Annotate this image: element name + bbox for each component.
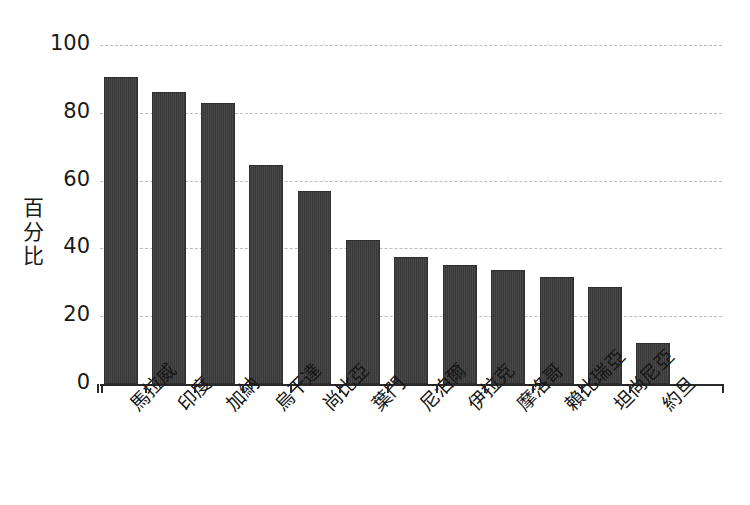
y-tick-label-40: 40 xyxy=(44,234,90,258)
y-tick-label-20: 20 xyxy=(44,302,90,326)
gridline-80 xyxy=(100,113,722,114)
x-axis-tick xyxy=(532,384,534,393)
bar xyxy=(152,92,186,384)
x-axis-tick xyxy=(387,384,389,393)
bar xyxy=(104,77,138,384)
y-axis-tick-labels: 100806040200 xyxy=(36,45,90,384)
x-axis-tick xyxy=(145,384,147,393)
x-axis-tick xyxy=(484,384,486,393)
x-axis-tick xyxy=(629,384,631,393)
gridline-100 xyxy=(100,45,722,46)
gridline-40 xyxy=(100,248,722,249)
bar xyxy=(249,165,283,384)
y-tick-label-0: 0 xyxy=(44,370,90,394)
x-axis-tick xyxy=(581,384,583,393)
x-axis-tick xyxy=(339,384,341,393)
x-axis-tick xyxy=(242,384,244,393)
x-axis-tick xyxy=(97,384,99,393)
bar xyxy=(298,191,332,384)
y-tick-label-60: 60 xyxy=(44,167,90,191)
chart-title-clipped xyxy=(0,0,750,7)
plot-area xyxy=(100,45,722,384)
x-axis-left-cap xyxy=(101,384,103,393)
x-axis-right-cap xyxy=(722,384,724,393)
x-axis-tick xyxy=(436,384,438,393)
y-tick-label-100: 100 xyxy=(44,31,90,55)
gridline-60 xyxy=(100,181,722,182)
bar xyxy=(394,257,428,384)
x-axis-tick xyxy=(194,384,196,393)
bar-chart-figure: 百 分 比 100806040200 馬拉威印度加納烏干達尚比亞葉門尼泊爾伊拉克… xyxy=(0,0,750,505)
bar xyxy=(201,103,235,384)
x-axis-tick xyxy=(290,384,292,393)
y-tick-label-80: 80 xyxy=(44,99,90,123)
